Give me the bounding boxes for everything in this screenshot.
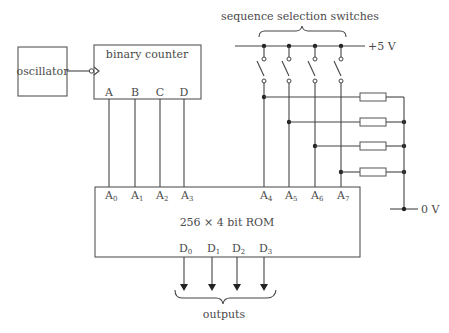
switch-2 [282, 44, 291, 187]
resistor-2 [360, 118, 386, 126]
resistor-1 [360, 93, 386, 101]
counter-output-b: B [131, 86, 139, 99]
switch-1 [257, 44, 266, 187]
arrow-down-icon [260, 284, 268, 291]
oscillator-label: oscillator [17, 65, 70, 78]
resistor-3 [360, 142, 386, 150]
positive-supply-label: +5 V [368, 40, 397, 53]
output-arrows [180, 257, 268, 291]
outputs-brace [175, 290, 276, 304]
switch-2-lever [282, 61, 289, 76]
outputs-label: outputs [203, 308, 246, 321]
switch-3-lever [308, 61, 315, 76]
rom-label: 256 × 4 bit ROM [180, 216, 275, 229]
binary-counter-label: binary counter [106, 48, 189, 61]
arrow-down-icon [208, 284, 216, 291]
switches-label: sequence selection switches [221, 10, 379, 23]
counter-to-rom-wires [109, 99, 184, 187]
switch-4-lever [334, 61, 341, 76]
oscillator-block: oscillator [17, 47, 70, 96]
switch-1-lever [257, 61, 264, 76]
resistor-4 [360, 168, 386, 176]
circuit-diagram: oscillator binary counter A B C D sequen… [0, 0, 449, 333]
rom-block: 256 × 4 bit ROM A0 A1 A2 A3 A4 A5 A6 A7 … [95, 187, 360, 257]
counter-output-c: C [156, 86, 164, 99]
binary-counter-block: binary counter A B C D [94, 45, 201, 99]
arrow-down-icon [180, 284, 188, 291]
arrow-down-icon [233, 284, 241, 291]
counter-output-a: A [104, 86, 114, 99]
counter-output-d: D [180, 86, 189, 99]
switches-brace [259, 26, 346, 37]
switch-3 [308, 44, 317, 187]
switch-4 [334, 44, 343, 187]
clock-inversion-bubble-icon [89, 69, 93, 73]
ground-label: 0 V [421, 203, 440, 216]
